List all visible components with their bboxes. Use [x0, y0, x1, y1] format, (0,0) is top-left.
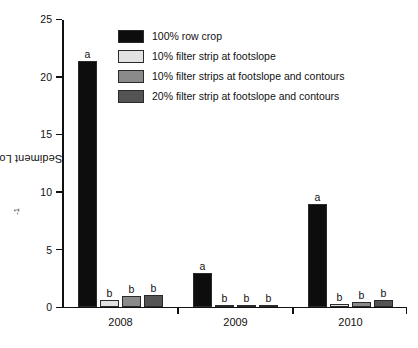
legend-label: 20% filter strip at footslope and contou… — [152, 90, 339, 103]
bar: b — [100, 300, 119, 307]
bar-annotation: a — [315, 191, 321, 203]
y-axis-title-text: Sediment Loss (Mg ha — [0, 153, 62, 165]
bar: b — [122, 296, 141, 306]
bar-annotation: b — [337, 291, 343, 303]
x-axis-group-label: 2010 — [338, 316, 362, 328]
sediment-loss-bar-chart: Sediment Loss (Mg ha-1) 0510152025 abbba… — [0, 0, 418, 348]
y-axis-tick-label: 10 — [40, 186, 52, 198]
bar-annotation: b — [151, 282, 157, 294]
bar-annotation: b — [107, 287, 113, 299]
legend-swatch — [118, 90, 144, 103]
y-axis-tick: 25 — [56, 19, 62, 21]
bar: b — [237, 305, 256, 307]
x-axis-group-label: 2009 — [223, 316, 247, 328]
y-axis-title-exponent: -1 — [12, 208, 21, 215]
legend-item: 100% row crop — [118, 30, 345, 43]
y-axis-line — [62, 20, 64, 308]
x-axis-separator-tick — [292, 308, 294, 314]
legend-label: 10% filter strips at footslope and conto… — [152, 70, 345, 83]
bar-annotation: b — [381, 287, 387, 299]
legend-label: 10% filter strip at footslope — [152, 50, 276, 63]
x-axis-separator-tick — [177, 308, 179, 314]
bar-annotation: b — [266, 292, 272, 304]
y-axis-title: Sediment Loss (Mg ha-1) — [10, 0, 28, 318]
y-axis-tick: 5 — [56, 249, 62, 251]
legend-swatch — [118, 50, 144, 63]
bar-annotation: b — [222, 292, 228, 304]
bar-annotation: b — [359, 289, 365, 301]
bar: a — [193, 273, 212, 306]
y-axis-tick: 0 — [56, 307, 62, 309]
bar-annotation: a — [85, 48, 91, 60]
bar: b — [215, 305, 234, 307]
bar: a — [308, 204, 327, 307]
y-axis-tick-label: 0 — [46, 301, 52, 313]
x-axis-group-label: 2008 — [108, 316, 132, 328]
y-axis-tick: 15 — [56, 134, 62, 136]
y-axis-tick-label: 5 — [46, 244, 52, 256]
bar: a — [78, 61, 97, 306]
y-axis-tick: 10 — [56, 191, 62, 193]
bar-annotation: a — [200, 260, 206, 272]
bar: b — [259, 305, 278, 307]
legend-item: 10% filter strips at footslope and conto… — [118, 70, 345, 83]
bar: b — [352, 302, 371, 306]
x-axis-line — [62, 307, 407, 309]
legend-item: 10% filter strip at footslope — [118, 50, 345, 63]
legend-label: 100% row crop — [152, 30, 222, 43]
legend: 100% row crop10% filter strip at footslo… — [118, 30, 345, 103]
bar-annotation: b — [244, 292, 250, 304]
bar: b — [330, 304, 349, 306]
y-axis-tick-label: 15 — [40, 128, 52, 140]
bar: b — [144, 295, 163, 307]
y-axis-tick-label: 25 — [40, 13, 52, 25]
x-axis-end-tick — [406, 308, 408, 314]
legend-item: 20% filter strip at footslope and contou… — [118, 90, 345, 103]
legend-swatch — [118, 70, 144, 83]
y-axis-tick-label: 20 — [40, 71, 52, 83]
bar: b — [374, 300, 393, 307]
y-axis-tick: 20 — [56, 76, 62, 78]
bar-annotation: b — [129, 283, 135, 295]
legend-swatch — [118, 30, 144, 43]
